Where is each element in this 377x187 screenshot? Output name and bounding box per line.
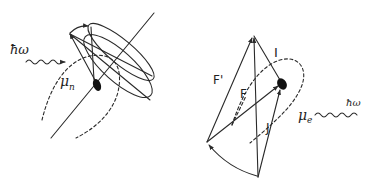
left-cone-edge-3 <box>70 34 150 100</box>
right-photon-wavy-line <box>315 113 357 117</box>
right-label-F: F <box>240 87 247 101</box>
left-photon-wavy-arrow <box>26 60 65 64</box>
left-precession-arrow <box>70 26 88 33</box>
left-moment-subscript: n <box>69 82 75 92</box>
right-nucleus-dot <box>275 77 289 92</box>
right-moment-subscript: e <box>307 115 312 125</box>
left-panel: ħω μ n <box>10 13 161 138</box>
figure-canvas: ħω μ n <box>0 0 377 187</box>
right-vector-bottom-top <box>254 38 258 177</box>
right-label-J: J <box>265 121 270 135</box>
left-cone-edge-4 <box>70 34 152 76</box>
right-curved-transition-arrow <box>209 145 257 176</box>
left-dipole-field-line-outer <box>42 55 120 138</box>
right-label-I: I <box>274 45 278 60</box>
left-nucleus-dot <box>91 78 102 92</box>
right-photon-label: ħω <box>346 97 361 108</box>
left-precession-ellipse-2 <box>75 25 160 106</box>
right-moment-label: μ <box>298 107 307 123</box>
left-photon-label: ħω <box>10 42 29 57</box>
right-label-F-prime: F' <box>213 73 223 87</box>
left-moment-label: μ <box>60 73 69 89</box>
right-panel: F' F I J μ e ħω <box>207 36 361 177</box>
